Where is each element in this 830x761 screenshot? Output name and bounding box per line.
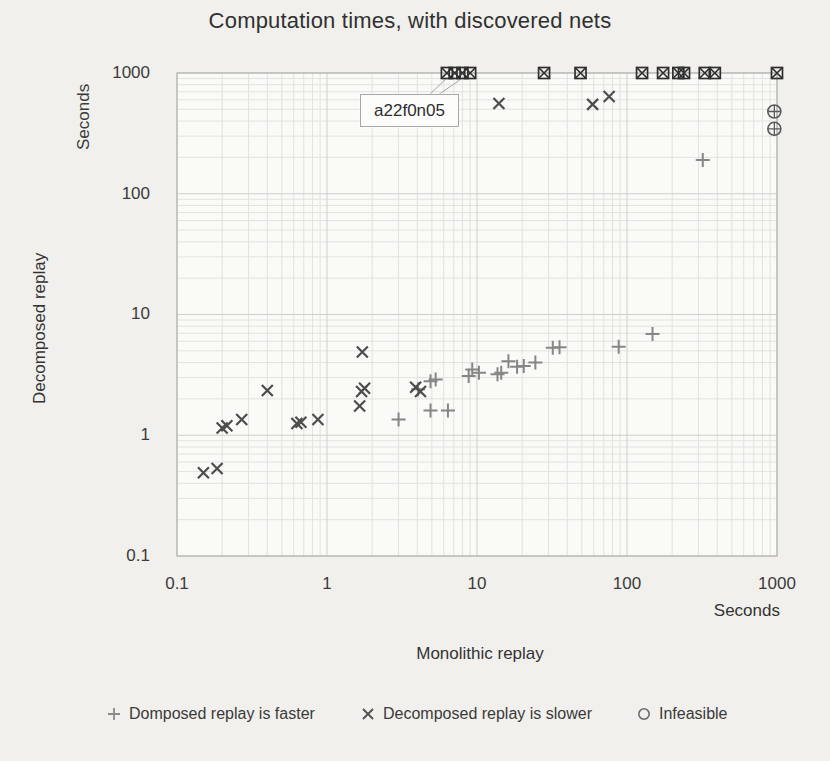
legend-item-slower: Decomposed replay is slower	[360, 705, 592, 723]
annotation-text: a22f0n05	[374, 101, 445, 121]
chart-page: Computation times, with discovered nets …	[0, 0, 830, 761]
x-tick-100: 100	[592, 574, 662, 594]
x-tick-1000: 1000	[742, 574, 812, 594]
y-axis-unit-label: Seconds	[74, 84, 94, 150]
y-tick-0p1: 0.1	[88, 546, 150, 566]
y-tick-10: 10	[88, 304, 150, 324]
plus-marker-icon	[106, 706, 122, 722]
circle-marker-icon	[636, 706, 652, 722]
y-tick-100: 100	[88, 184, 150, 204]
chart-title: Computation times, with discovered nets	[130, 8, 690, 34]
x-axis-unit-label: Seconds	[680, 601, 780, 621]
x-tick-1: 1	[292, 574, 362, 594]
y-axis-title: Decomposed replay	[30, 253, 50, 404]
legend-label-slower: Decomposed replay is slower	[383, 705, 592, 723]
annotation-callout: a22f0n05	[360, 94, 459, 127]
legend-label-infeasible: Infeasible	[659, 705, 728, 723]
legend-label-faster: Domposed replay is faster	[129, 705, 315, 723]
scatter-plot-canvas	[157, 45, 817, 585]
legend-item-faster: Domposed replay is faster	[106, 705, 315, 723]
x-tick-0p1: 0.1	[142, 574, 212, 594]
cross-marker-icon	[360, 706, 376, 722]
x-tick-10: 10	[442, 574, 512, 594]
y-tick-1: 1	[88, 425, 150, 445]
legend-item-infeasible: Infeasible	[636, 705, 728, 723]
y-tick-1000: 1000	[88, 63, 150, 83]
x-axis-title: Monolithic replay	[330, 644, 630, 664]
